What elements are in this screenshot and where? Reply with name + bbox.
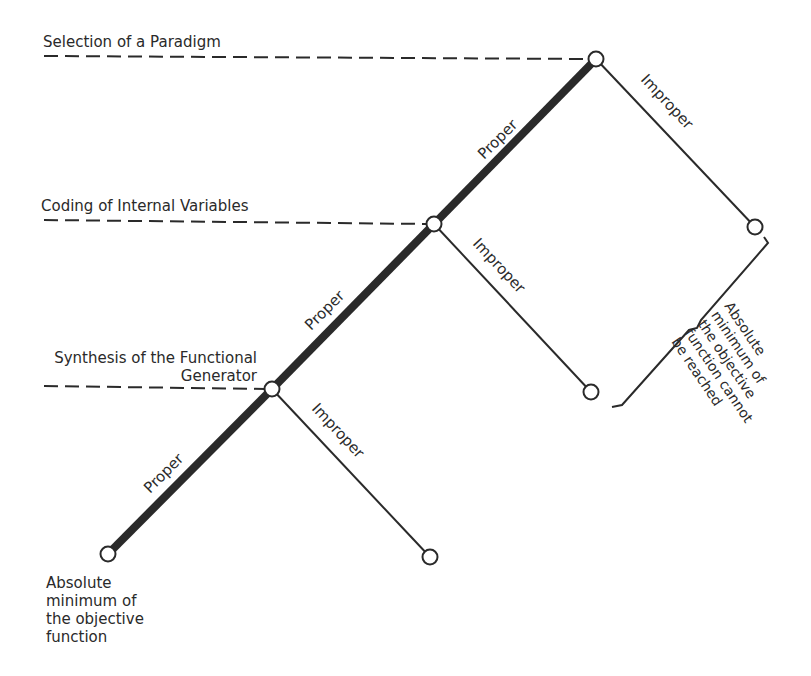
goal-label-line-4: function [46, 628, 107, 646]
level-label-synthesis-2: Generator [181, 367, 258, 385]
goal-label-line-2: minimum of [46, 592, 137, 610]
brace-label: Absolute minimum of the objective functi… [668, 299, 796, 435]
improper-edge-2 [434, 224, 591, 392]
node-improper-2 [584, 385, 599, 400]
node-improper-1 [748, 220, 763, 235]
improper-label-1: Improper [637, 70, 697, 133]
level-line-synthesis [44, 386, 265, 389]
node-goal [101, 547, 116, 562]
proper-label-3: Proper [140, 449, 188, 497]
improper-edge-1 [596, 59, 755, 227]
improper-label-2: Improper [469, 234, 529, 297]
proper-edge-1 [434, 59, 596, 224]
decision-tree-diagram: Selection of a Paradigm Coding of Intern… [0, 0, 811, 676]
improper-edge-3 [272, 389, 430, 557]
proper-edge-3 [108, 389, 272, 554]
level-label-coding: Coding of Internal Variables [41, 197, 249, 215]
goal-label-line-3: the objective [46, 610, 144, 628]
proper-edge-2 [272, 224, 434, 389]
node-synthesis [265, 382, 280, 397]
level-line-coding [44, 220, 427, 224]
level-label-synthesis-1: Synthesis of the Functional [54, 349, 257, 367]
goal-label-line-1: Absolute [46, 574, 112, 592]
level-line-paradigm [44, 56, 589, 59]
level-label-paradigm: Selection of a Paradigm [43, 33, 221, 51]
node-paradigm [589, 52, 604, 67]
node-coding [427, 217, 442, 232]
proper-label-2: Proper [301, 286, 349, 334]
improper-label-3: Improper [308, 399, 368, 462]
node-improper-3 [423, 550, 438, 565]
